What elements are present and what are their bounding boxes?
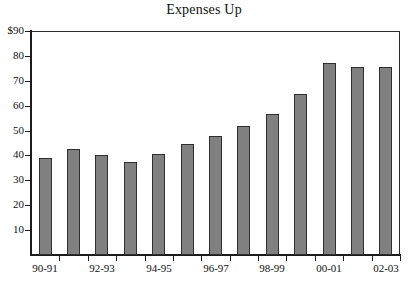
y-axis-tick xyxy=(25,131,31,132)
y-axis-tick xyxy=(25,155,31,156)
bar-96-97 xyxy=(209,136,222,255)
bar-chart: Expenses Up 1020304050607080$90 90-9192-… xyxy=(0,0,408,285)
bar-00-01 xyxy=(323,63,336,255)
x-axis-tick xyxy=(315,256,316,261)
x-axis-label: 00-01 xyxy=(309,262,349,274)
x-axis-tick xyxy=(116,256,117,261)
y-axis-label: 10 xyxy=(0,223,24,235)
x-axis-tick xyxy=(173,256,174,261)
x-axis-label: 94-95 xyxy=(139,262,179,274)
x-axis-label: 02-03 xyxy=(366,262,406,274)
bar-97-98 xyxy=(237,126,250,255)
x-axis-label: 96-97 xyxy=(196,262,236,274)
x-axis-label: 92-93 xyxy=(82,262,122,274)
chart-title: Expenses Up xyxy=(0,2,408,18)
y-axis-tick xyxy=(25,106,31,107)
x-axis-tick xyxy=(286,256,287,261)
x-axis-tick xyxy=(145,256,146,261)
bar-93-94 xyxy=(124,162,137,255)
y-axis-tick xyxy=(25,56,31,57)
bar-94-95 xyxy=(152,154,165,255)
bar-99-00 xyxy=(294,94,307,255)
y-axis-tick xyxy=(25,230,31,231)
y-axis-tick xyxy=(25,205,31,206)
y-axis-line xyxy=(30,30,32,256)
y-axis-label: $90 xyxy=(0,24,24,36)
bar-90-91 xyxy=(39,158,52,255)
bar-98-99 xyxy=(266,114,279,255)
x-axis-tick xyxy=(400,256,401,261)
x-axis-tick xyxy=(201,256,202,261)
y-axis-label: 40 xyxy=(0,148,24,160)
bar-01-02 xyxy=(351,67,364,255)
y-axis-label: 50 xyxy=(0,124,24,136)
x-axis-tick xyxy=(59,256,60,261)
y-axis-tick xyxy=(25,81,31,82)
bar-95-96 xyxy=(181,144,194,255)
y-axis-label: 70 xyxy=(0,74,24,86)
x-axis-tick xyxy=(88,256,89,261)
y-axis-label: 20 xyxy=(0,198,24,210)
x-axis-label: 90-91 xyxy=(25,262,65,274)
x-axis-label: 98-99 xyxy=(252,262,292,274)
bar-92-93 xyxy=(95,155,108,255)
x-axis-tick xyxy=(230,256,231,261)
x-axis-tick xyxy=(258,256,259,261)
x-axis-tick xyxy=(343,256,344,261)
bar-91-92 xyxy=(67,149,80,255)
y-axis-label: 80 xyxy=(0,49,24,61)
y-axis-tick xyxy=(25,31,31,32)
bar-02-03 xyxy=(379,67,392,255)
y-axis-label: 30 xyxy=(0,173,24,185)
y-axis-label: 60 xyxy=(0,99,24,111)
y-axis-tick xyxy=(25,180,31,181)
x-axis-tick xyxy=(372,256,373,261)
